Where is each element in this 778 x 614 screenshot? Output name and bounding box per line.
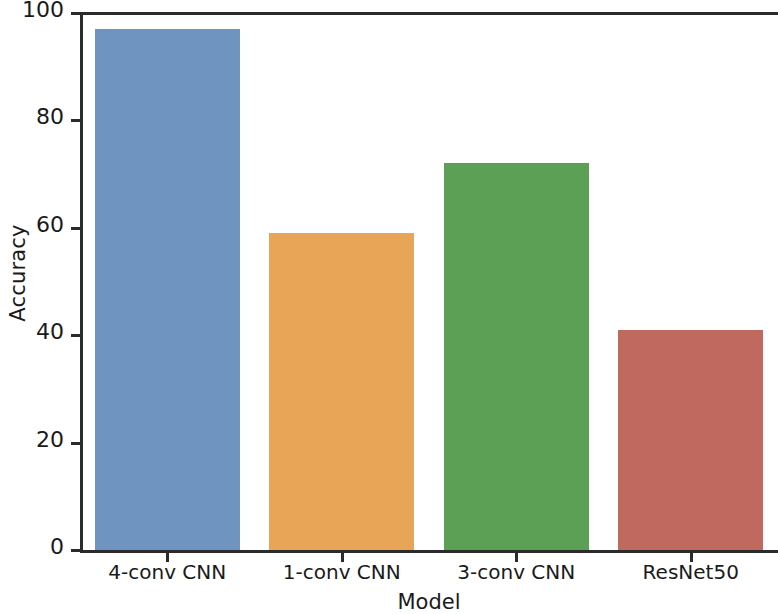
y-axis-tick-label: 100 [0, 0, 64, 21]
y-axis-tick-mark [71, 12, 81, 15]
axis-spine-bottom [80, 550, 778, 553]
x-axis-tick-label: ResNet50 [643, 560, 739, 584]
y-axis-tick-label: 20 [0, 429, 64, 451]
y-axis-tick-mark [71, 442, 81, 445]
bar [444, 163, 589, 550]
y-axis-tick-label: 80 [0, 106, 64, 128]
x-axis-tick-label: 1-conv CNN [283, 560, 401, 584]
y-axis-tick-label: 60 [0, 214, 64, 236]
bar-chart-figure: Accuracy 020406080100 4-conv CNN1-conv C… [0, 0, 778, 614]
x-axis-tick-labels: 4-conv CNN1-conv CNN3-conv CNNResNet50 [80, 560, 778, 590]
y-axis-tick-label: 0 [0, 536, 64, 558]
x-axis-tick-label: 4-conv CNN [108, 560, 226, 584]
y-axis-tick-mark [71, 119, 81, 122]
axis-spine-left [80, 12, 83, 553]
y-axis-tick-mark [71, 334, 81, 337]
axis-spine-top [80, 12, 778, 15]
y-axis-tick-mark [71, 227, 81, 230]
x-axis-tick-label: 3-conv CNN [457, 560, 575, 584]
bar [269, 233, 414, 550]
bar [95, 29, 240, 550]
y-axis-tick-label: 40 [0, 321, 64, 343]
y-axis-tick-mark [71, 549, 81, 552]
y-axis-tick-labels: 020406080100 [0, 0, 72, 614]
bar [618, 330, 763, 550]
plot-area [80, 12, 778, 553]
x-axis-label: Model [80, 590, 778, 614]
